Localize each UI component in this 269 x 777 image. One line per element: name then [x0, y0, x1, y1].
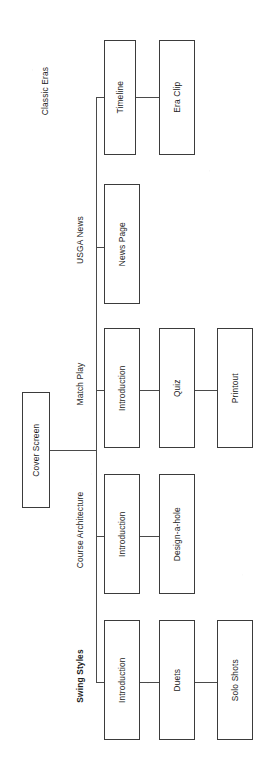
node-label-cover-screen: Cover Screen: [32, 423, 40, 476]
branch-label-usga-news: USGA News: [76, 205, 88, 275]
node-match-play-introduction[interactable]: Introduction: [104, 328, 140, 448]
node-swing-styles-introduction[interactable]: Introduction: [104, 620, 140, 740]
node-label-era-clip: Era Clip: [173, 82, 181, 113]
node-cover-screen[interactable]: Cover Screen: [22, 392, 50, 508]
node-design-a-hole[interactable]: Design-a-hole: [159, 474, 195, 594]
node-label-quiz: Quiz: [173, 379, 181, 397]
node-label-match-play-introduction: Introduction: [118, 365, 126, 411]
branch-label-course-architecture: Course Architecture: [76, 482, 88, 578]
node-printout[interactable]: Printout: [217, 328, 253, 448]
connector-duets-to-solo-shots: [195, 682, 217, 683]
node-label-printout: Printout: [231, 373, 239, 403]
branch-label-classic-eras: Classic Eras: [41, 56, 53, 126]
connector-quiz-to-printout: [195, 390, 217, 391]
sitemap-diagram: Cover Screen Classic Eras USGA News Matc…: [0, 0, 269, 777]
node-solo-shots[interactable]: Solo Shots: [217, 620, 253, 740]
node-label-news-page: News Page: [118, 222, 126, 266]
node-label-solo-shots: Solo Shots: [231, 659, 239, 701]
node-label-swing-styles-introduction: Introduction: [118, 657, 126, 703]
node-course-architecture-introduction[interactable]: Introduction: [104, 474, 140, 594]
branch-label-swing-styles: Swing Styles: [76, 638, 88, 714]
node-label-course-architecture-introduction: Introduction: [118, 511, 126, 557]
node-label-duets: Duets: [173, 669, 181, 692]
node-label-timeline: Timeline: [116, 81, 124, 114]
node-duets[interactable]: Duets: [159, 620, 195, 740]
branch-label-match-play: Match Play: [76, 349, 88, 419]
node-quiz[interactable]: Quiz: [159, 328, 195, 448]
connector-timeline-to-era-clip: [136, 97, 159, 98]
node-news-page[interactable]: News Page: [104, 184, 140, 304]
root-stem-line: [50, 450, 97, 451]
node-era-clip[interactable]: Era Clip: [159, 40, 195, 155]
node-timeline[interactable]: Timeline: [104, 40, 136, 155]
node-label-design-a-hole: Design-a-hole: [173, 507, 181, 561]
